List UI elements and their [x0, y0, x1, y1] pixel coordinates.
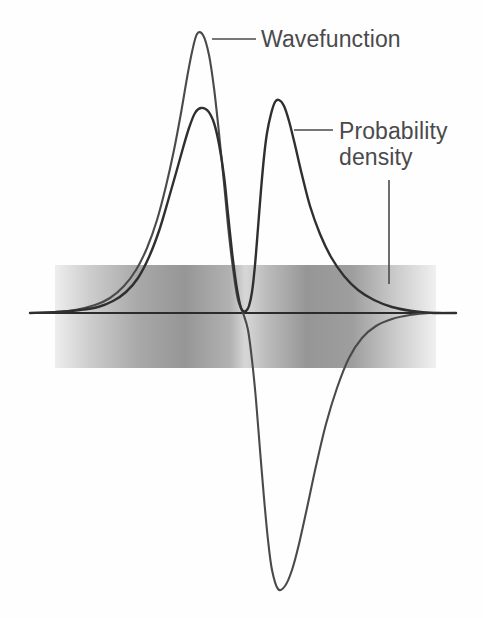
- wavefunction-label: Wavefunction: [261, 26, 401, 52]
- wavefunction-figure: Wavefunction Probability density: [0, 0, 483, 618]
- probability-density-label: Probability density: [339, 118, 448, 170]
- figure-canvas: [0, 0, 483, 618]
- electron-density-band: [55, 265, 436, 368]
- probability-density-label-line1: Probability: [339, 118, 448, 144]
- probability-density-label-line2: density: [339, 144, 448, 170]
